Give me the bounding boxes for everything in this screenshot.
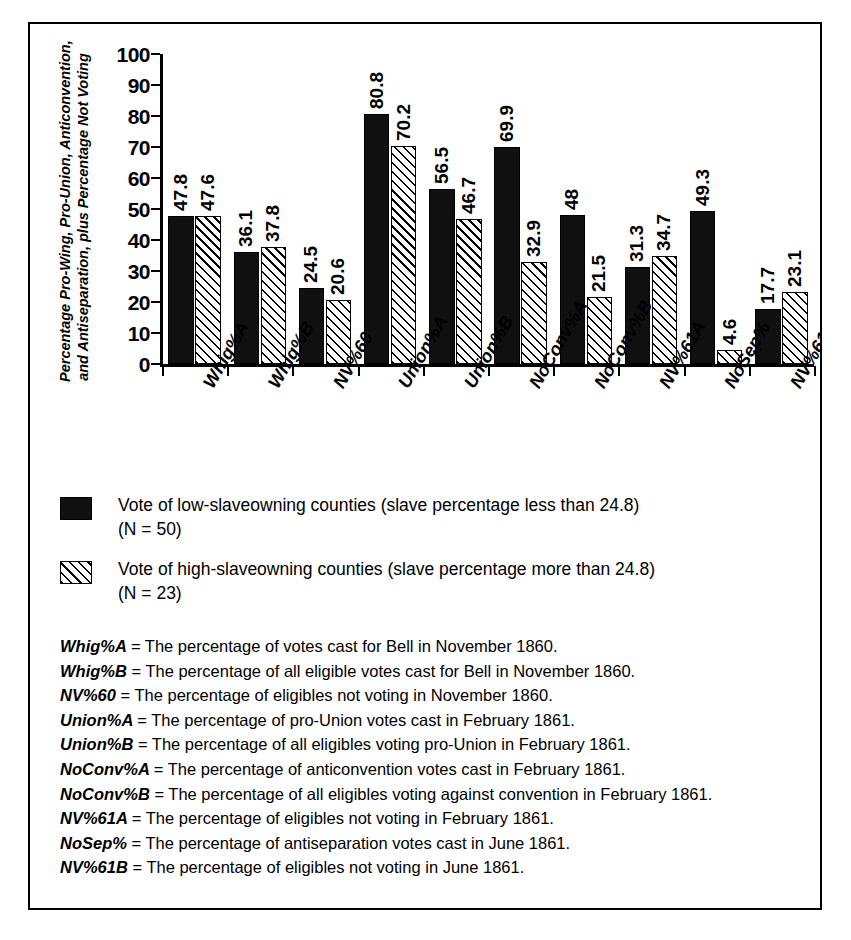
plot-area: 47.847.636.137.824.520.680.870.256.546.7… [162,54,814,364]
bar[interactable]: 37.8 [261,247,287,364]
definition-row: Union%B = The percentage of all eligible… [60,732,805,757]
y-tick-mark [151,53,160,55]
y-tick-mark [151,146,160,148]
legend-label: Vote of high-slaveowning counties (slave… [118,558,800,582]
bar-value-label: 56.5 [432,147,451,184]
x-tick-mark [162,366,164,376]
bar-chart: Percentage Pro-Wing, Pro-Union, Anticonv… [30,24,822,479]
bar-value-label: 47.8 [171,174,190,211]
legend-entry: Vote of low-slaveowning counties (slave … [60,494,800,544]
x-tick-mark [618,366,620,376]
definition-row: NV%61B = The percentage of eligibles not… [60,855,805,880]
y-tick-mark [151,84,160,86]
y-axis-tick-labels: 0102030405060708090100 [88,54,150,364]
definition-row: Union%A = The percentage of pro-Union vo… [60,708,805,733]
y-tick-mark [151,301,160,303]
bar-group: 80.870.2 [358,54,423,364]
bar-group: 47.847.6 [162,54,227,364]
x-tick-mark [814,366,816,376]
bar[interactable]: 70.2 [391,146,417,364]
x-tick-mark [749,366,751,376]
definition-description: = The percentage of all eligible votes c… [132,662,636,680]
bar-value-label: 80.8 [367,72,386,109]
y-tick-mark [151,363,160,365]
x-tick-mark [684,366,686,376]
definition-description: = The percentage of eligibles not voting… [132,809,554,827]
legend-count: (N = 50) [118,518,800,542]
bar-value-label: 47.6 [198,174,217,211]
bar[interactable]: 47.8 [168,216,194,364]
bar-value-label: 32.9 [524,220,543,257]
definition-term: NV%60 [60,686,121,704]
definition-term: Union%A [60,711,137,729]
y-tick-label: 80 [128,106,150,127]
definition-description: = The percentage of pro-Union votes cast… [137,711,575,729]
y-tick-mark [151,177,160,179]
y-tick-label: 50 [128,199,150,220]
bar[interactable]: 47.6 [195,216,221,364]
bar-value-label: 21.5 [589,255,608,292]
definition-description: = The percentage of all eligibles voting… [138,735,631,753]
definition-term: Whig%B [60,662,132,680]
y-tick-mark [151,208,160,210]
definition-term: NoSep% [60,834,132,852]
bar[interactable]: 80.8 [364,114,390,364]
x-tick-mark [292,366,294,376]
definition-description: = The percentage of antiseparation votes… [132,834,571,852]
legend-count: (N = 23) [118,582,800,606]
bar-value-label: 4.6 [720,318,739,344]
definitions-list: Whig%A = The percentage of votes cast fo… [60,634,805,880]
bar-value-label: 48 [562,189,581,210]
bar-value-label: 70.2 [394,104,413,141]
definition-term: NoConv%B [60,785,154,803]
y-tick-label: 90 [128,75,150,96]
definition-term: Whig%A [60,637,131,655]
definition-term: Union%B [60,735,138,753]
definition-description: = The percentage of all eligibles voting… [154,785,712,803]
y-tick-label: 30 [128,261,150,282]
definition-term: NV%61A [60,809,132,827]
y-tick-mark [151,270,160,272]
y-tick-mark [151,115,160,117]
definition-row: NV%60 = The percentage of eligibles not … [60,683,805,708]
legend-entry: Vote of high-slaveowning counties (slave… [60,558,800,608]
figure-frame: Percentage Pro-Wing, Pro-Union, Anticonv… [28,22,822,910]
x-tick-mark [227,366,229,376]
y-axis-title-line1: Percentage Pro-Wing, Pro-Union, Anticonv… [56,52,74,382]
y-tick-label: 10 [128,323,150,344]
bar-value-label: 31.3 [627,225,646,262]
bar-group: 24.520.6 [292,54,357,364]
definition-row: NoSep% = The percentage of antiseparatio… [60,831,805,856]
y-tick-label: 100 [116,44,150,65]
y-tick-label: 40 [128,230,150,251]
bar-value-label: 49.3 [693,169,712,206]
bar-value-label: 46.7 [459,177,478,214]
y-axis-title: Percentage Pro-Wing, Pro-Union, Anticonv… [56,52,92,382]
x-tick-mark [488,366,490,376]
y-tick-label: 20 [128,292,150,313]
bar-value-label: 37.8 [263,205,282,242]
legend-label: Vote of low-slaveowning counties (slave … [118,494,800,518]
bar-value-label: 20.6 [328,258,347,295]
y-tick-label: 60 [128,168,150,189]
x-tick-mark [358,366,360,376]
x-tick-mark [423,366,425,376]
bar-value-label: 69.9 [497,105,516,142]
y-tick-mark [151,239,160,241]
definition-description: = The percentage of eligibles not voting… [132,858,524,876]
bar-group: 36.137.8 [227,54,292,364]
definition-row: Whig%A = The percentage of votes cast fo… [60,634,805,659]
definition-term: NoConv%A [60,760,154,778]
definition-row: NV%61A = The percentage of eligibles not… [60,806,805,831]
y-tick-mark [151,332,160,334]
chart-legend: Vote of low-slaveowning counties (slave … [60,494,800,622]
definition-row: Whig%B = The percentage of all eligible … [60,659,805,684]
definition-description: = The percentage of anticonvention votes… [154,760,626,778]
bar-value-label: 23.1 [785,250,804,287]
definition-row: NoConv%A = The percentage of anticonvent… [60,757,805,782]
y-tick-label: 0 [139,354,150,375]
definition-description: = The percentage of eligibles not voting… [121,686,553,704]
bar-value-label: 17.7 [758,267,777,304]
y-tick-label: 70 [128,137,150,158]
bar[interactable]: 46.7 [456,219,482,364]
